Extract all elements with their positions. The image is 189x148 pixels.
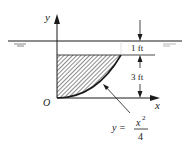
dimension-label-1ft: 1 ft [131, 43, 144, 53]
water-surface-marker-left [14, 44, 26, 46]
equation-denominator: 4 [138, 131, 143, 142]
dimension-arrow-down-bottom-icon [138, 91, 143, 98]
x-axis-label: x [154, 99, 160, 111]
equation-numerator: x [135, 117, 141, 128]
hatched-plate-region [57, 55, 121, 98]
origin-label: O [43, 97, 50, 108]
water-surface-marker-right [163, 44, 176, 46]
diagram-canvas: y x O 1 ft 3 ft y = x 2 4 [0, 0, 189, 148]
dimension-label-3ft: 3 ft [131, 72, 144, 82]
y-axis-label: y [44, 11, 50, 23]
equation-lhs: y = [111, 122, 126, 133]
equation-exponent: 2 [142, 114, 146, 122]
y-axis-arrow-icon [54, 14, 60, 24]
curve-leader-line [105, 86, 130, 113]
dimension-arrow-down-icon [138, 34, 143, 41]
